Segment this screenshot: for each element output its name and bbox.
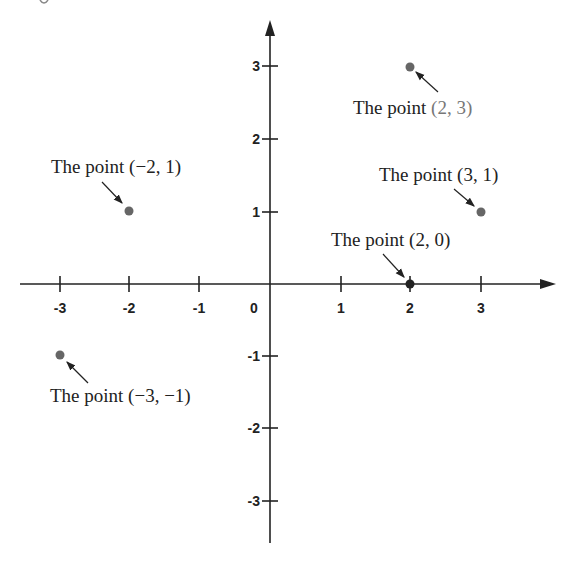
y-tick-label: -3: [248, 493, 261, 509]
x-tick-label: -1: [193, 300, 206, 316]
point-label-text: The point: [331, 229, 409, 250]
svg-text:The point (−2, 1): The point (−2, 1): [51, 156, 181, 178]
x-axis-arrow-icon: [540, 279, 556, 289]
point-3-1: The point (3, 1): [379, 164, 498, 217]
y-tick-label: -2: [248, 420, 261, 436]
point-label-coords: (2, 3): [431, 97, 472, 119]
point-neg2-1: The point (−2, 1): [51, 156, 181, 216]
svg-text:The point (2, 0): The point (2, 0): [331, 229, 450, 251]
x-tick-label: 0: [250, 300, 258, 316]
x-tick-label: -2: [123, 300, 136, 316]
x-tick-label: -3: [54, 300, 67, 316]
y-axis-arrow-icon: [265, 20, 275, 36]
point-label-coords: (2, 0): [409, 229, 450, 251]
point-label-coords: (−2, 1): [129, 156, 181, 178]
x-tick-label: 3: [477, 300, 485, 316]
y-tick-label: 3: [252, 58, 260, 74]
coordinate-plane: -3-2-10123 321-1-2-3 The point (2, 3) Th…: [0, 0, 573, 570]
point-label-text: The point: [50, 385, 128, 406]
point-neg3-neg1: The point (−3, −1): [50, 351, 191, 408]
cropped-text-fragment: [40, 0, 48, 3]
point-label-text: The point: [51, 156, 129, 177]
point-label-text: The point: [353, 97, 431, 118]
y-tick-label: 2: [252, 131, 260, 147]
y-tick-label: -1: [248, 348, 261, 364]
svg-text:The point (−3, −1): The point (−3, −1): [50, 385, 191, 407]
point-2-3: The point (2, 3): [353, 63, 472, 120]
svg-text:The point (3, 1): The point (3, 1): [379, 164, 498, 186]
svg-text:The point (2, 3): The point (2, 3): [353, 97, 472, 119]
point-label-text: The point: [379, 164, 457, 185]
point-label-coords: (−3, −1): [128, 385, 191, 407]
point-2-0: The point (2, 0): [331, 229, 450, 289]
point-label-coords: (3, 1): [457, 164, 498, 186]
x-tick-label: 1: [337, 300, 345, 316]
y-tick-label: 1: [252, 204, 260, 220]
x-tick-label: 2: [406, 300, 414, 316]
